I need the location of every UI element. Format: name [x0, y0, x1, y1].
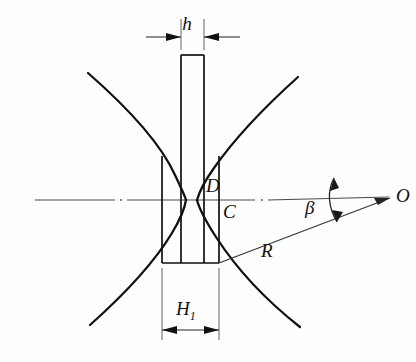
label-C: C	[223, 201, 236, 222]
centerline-right-segment	[268, 197, 389, 200]
label-R: R	[260, 240, 273, 261]
dimension-h-group	[146, 19, 240, 50]
H1-arrowhead-right	[204, 326, 219, 334]
h-arrowhead-left	[166, 33, 181, 41]
label-beta: β	[304, 197, 315, 218]
label-h: h	[182, 13, 192, 34]
horizontal-centerline-group	[35, 197, 389, 201]
label-O: O	[396, 185, 410, 206]
workpiece-outline	[162, 55, 219, 263]
label-H1: H1	[175, 298, 196, 323]
angle-beta-group	[329, 178, 343, 222]
centerline-dot-left	[120, 199, 122, 201]
label-H1-subscript: 1	[190, 309, 196, 323]
H1-arrowhead-left	[162, 326, 177, 334]
label-H1-base: H	[175, 298, 191, 319]
centerline-dot-right	[261, 199, 263, 201]
radius-arrowhead	[374, 198, 390, 205]
arc-upper-left	[88, 73, 186, 200]
h-arrowhead-right	[204, 33, 219, 41]
figure-root: h H1 D C R β O	[0, 0, 416, 362]
technical-diagram-svg: h H1 D C R β O	[0, 0, 416, 362]
label-D: D	[205, 175, 220, 196]
dimension-H1-group	[162, 268, 219, 340]
